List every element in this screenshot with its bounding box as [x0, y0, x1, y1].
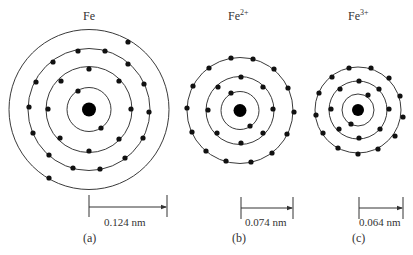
iron-ion-electron-shell-diagram: Fe0.124 nm(a) Fe2+0.074 nm(b) Fe3+0.064 …	[0, 0, 413, 255]
electron-dot	[223, 158, 228, 163]
electron-dot	[125, 39, 130, 44]
electron-dot	[228, 90, 233, 95]
nucleus	[82, 103, 96, 117]
electron-dot	[260, 130, 265, 135]
electron-dot	[189, 129, 194, 134]
radius-scale-bar: 0.064 nm	[359, 197, 403, 228]
electron-dot	[228, 55, 233, 60]
electron-dot	[337, 86, 342, 91]
radius-scale-bar: 0.074 nm	[241, 197, 293, 228]
radius-label: 0.074 nm	[245, 216, 287, 228]
electron-dot	[348, 121, 353, 126]
ion-label: Fe3+	[348, 8, 369, 23]
electron-dot	[70, 165, 75, 170]
electron-dot	[33, 79, 38, 84]
electron-dot	[57, 135, 62, 140]
atom-fe2plus: Fe2+0.074 nm(b)	[184, 8, 296, 245]
electron-dot	[365, 92, 370, 97]
electron-dot	[206, 65, 211, 70]
electron-dot	[392, 133, 397, 138]
radius-label: 0.064 nm	[359, 216, 401, 228]
electron-dot	[397, 93, 402, 98]
electron-dot	[205, 107, 210, 112]
electron-dot	[269, 150, 274, 155]
ion-label: Fe2+	[228, 8, 249, 23]
electron-dot	[238, 74, 243, 79]
electron-dot	[125, 61, 130, 66]
electron-dot	[355, 151, 360, 156]
electron-dot	[320, 130, 325, 135]
electron-dot	[328, 106, 333, 111]
arrowhead-icon	[287, 206, 293, 210]
electron-dot	[356, 135, 361, 140]
ion-label: Fe	[83, 9, 95, 23]
electron-dot	[376, 86, 381, 91]
electron-dot	[316, 90, 321, 95]
electron-dot	[146, 109, 151, 114]
electron-dot	[377, 126, 382, 131]
electron-dot	[368, 65, 373, 70]
electron-dot	[250, 56, 255, 61]
electron-dot	[50, 59, 55, 64]
electron-dot	[86, 66, 91, 71]
panel-label: (c)	[352, 231, 365, 245]
electron-dot	[238, 140, 243, 145]
ion-charge: 2+	[240, 8, 249, 17]
electron-dot	[45, 106, 50, 111]
radius-scale-bar: 0.124 nm	[89, 195, 167, 228]
electron-dot	[335, 145, 340, 150]
panel-label: (b)	[232, 231, 246, 245]
electron-dot	[400, 114, 405, 119]
electron-dot	[102, 48, 107, 53]
electron-dot	[346, 65, 351, 70]
electron-dot	[386, 106, 391, 111]
electron-dot	[215, 84, 220, 89]
electron-dot	[336, 126, 341, 131]
electron-dot	[329, 74, 334, 79]
arrowhead-icon	[397, 206, 403, 210]
electron-dot	[214, 130, 219, 135]
electron-dot	[270, 106, 275, 111]
ion-charge: 3+	[360, 8, 369, 17]
electron-dot	[285, 85, 290, 90]
panel-label: (a)	[83, 231, 96, 245]
electron-dot	[184, 105, 189, 110]
electron-dot	[291, 109, 296, 114]
nucleus	[234, 104, 247, 117]
electron-dot	[75, 88, 80, 93]
atom-fe3plus: Fe3+0.064 nm(c)	[313, 8, 405, 245]
electron-dot	[26, 104, 31, 109]
electron-dot	[97, 166, 102, 171]
electron-dot	[284, 131, 289, 136]
electron-dot	[190, 83, 195, 88]
electron-dot	[58, 78, 63, 83]
electron-dot	[386, 75, 391, 80]
electron-dot	[203, 148, 208, 153]
electron-dot	[356, 78, 361, 83]
electron-dot	[271, 66, 276, 71]
electron-dot	[248, 159, 253, 164]
electron-dot	[128, 106, 133, 111]
electron-dot	[141, 81, 146, 86]
atom-fe: Fe0.124 nm(a)	[9, 9, 169, 245]
electron-dot	[140, 135, 145, 140]
electron-dot	[46, 152, 51, 157]
electron-dot	[46, 175, 51, 180]
electron-dot	[313, 112, 318, 117]
electron-dot	[116, 78, 121, 83]
electron-dot	[116, 136, 121, 141]
electron-dot	[75, 48, 80, 53]
arrowhead-icon	[161, 205, 167, 209]
electron-dot	[260, 84, 265, 89]
electron-dot	[30, 130, 35, 135]
radius-label: 0.124 nm	[104, 216, 146, 228]
electron-dot	[375, 146, 380, 151]
electron-dot	[122, 155, 127, 160]
electron-dot	[86, 148, 91, 153]
nucleus	[352, 104, 364, 116]
electron-dot	[247, 123, 252, 128]
electron-dot	[98, 125, 103, 130]
